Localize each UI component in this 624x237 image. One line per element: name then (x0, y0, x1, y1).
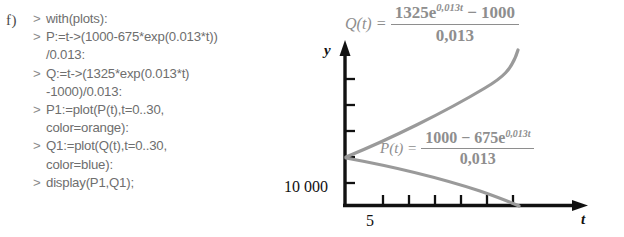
prompt-marker: > (33, 28, 46, 46)
prompt-marker: > (33, 10, 46, 28)
code-text: Q1:=plot(Q(t),t=0..30, (46, 138, 167, 153)
code-line: color=blue): (33, 156, 283, 174)
formula-p-fraction: 1000 − 675e0,013t 0,013 (421, 128, 534, 168)
y-axis-label: y (324, 42, 331, 59)
code-text: P1:=plot(P(t),t=0..30, (46, 102, 164, 117)
formula-p-numerator: 1000 − 675e0,013t (421, 128, 534, 149)
formula-q-fraction: 1325e0,013t − 1000 0,013 (391, 2, 519, 46)
code-line: >Q:=t->(1325*exp(0.013*t) (33, 65, 283, 83)
code-text: color=orange): (46, 120, 129, 135)
formula-q-num-b: − 1000 (467, 3, 515, 22)
code-text: with(plots): (46, 11, 107, 26)
x-tick-label: 5 (366, 212, 374, 230)
code-line: >Q1:=plot(Q(t),t=0..30, (33, 137, 283, 155)
code-line: -1000)/0.013: (33, 83, 283, 101)
code-text: display(P1,Q1); (46, 175, 134, 190)
code-line: >with(plots): (33, 10, 283, 28)
formula-p-num-exponent: 0,013t (505, 128, 530, 139)
formula-q-num-a: 1325e (395, 3, 437, 22)
item-label: f) (6, 12, 17, 29)
formula-p-num-a: 1000 − 675e (425, 129, 505, 146)
prompt-marker: > (33, 101, 46, 119)
code-line: color=orange): (33, 119, 283, 137)
x-axis-arrow (572, 200, 588, 211)
formula-q-num-exponent: 0,013t (436, 2, 463, 13)
figure-root: f) >with(plots): >P:=t->(1000-675*exp(0.… (0, 0, 624, 237)
code-line: >P:=t->(1000-675*exp(0.013*t)) (33, 28, 283, 46)
formula-q-denominator: 0,013 (391, 25, 519, 46)
prompt-marker: > (33, 65, 46, 83)
formula-p-lhs: P(t) = (380, 140, 417, 157)
code-line: >P1:=plot(P(t),t=0..30, (33, 101, 283, 119)
formula-q: Q(t) = 1325e0,013t − 1000 0,013 (345, 2, 519, 46)
formula-p: P(t) = 1000 − 675e0,013t 0,013 (380, 128, 534, 168)
code-text: /0.013: (46, 47, 85, 62)
formula-q-numerator: 1325e0,013t − 1000 (391, 2, 519, 25)
code-text: color=blue): (46, 157, 113, 172)
formula-p-denominator: 0,013 (421, 149, 534, 168)
code-line: >display(P1,Q1); (33, 174, 283, 192)
prompt-marker: > (33, 174, 46, 192)
formula-q-lhs: Q(t) = (345, 15, 386, 33)
code-line: /0.013: (33, 46, 283, 64)
maple-code-block: >with(plots): >P:=t->(1000-675*exp(0.013… (33, 10, 283, 192)
prompt-marker: > (33, 137, 46, 155)
plot-area: Q(t) = 1325e0,013t − 1000 0,013 P(t) = 1… (280, 0, 624, 237)
y-tick-label: 10 000 (284, 178, 328, 196)
x-axis-label: t (581, 211, 585, 228)
code-text: P:=t->(1000-675*exp(0.013*t)) (46, 29, 218, 44)
code-text: Q:=t->(1325*exp(0.013*t) (46, 66, 189, 81)
code-text: -1000)/0.013: (46, 84, 122, 99)
